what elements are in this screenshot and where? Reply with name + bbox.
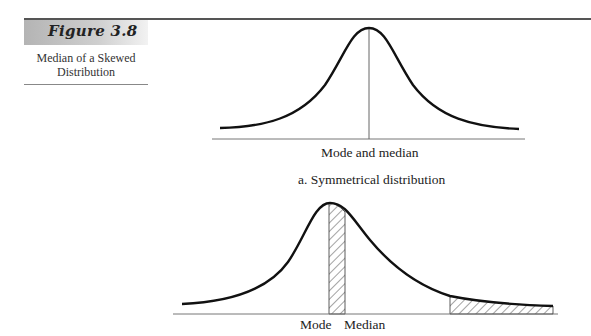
mode-median-shaded-strip (329, 203, 345, 314)
mode-and-median-label: Mode and median (321, 145, 418, 161)
symmetric-distribution-chart (212, 28, 525, 139)
mode-label: Mode (300, 317, 332, 333)
panel-a-subtitle: a. Symmetrical distribution (298, 172, 445, 188)
median-label: Median (344, 317, 385, 333)
skewed-distribution-chart (173, 203, 558, 314)
skewed-curve (182, 203, 553, 306)
chart-canvas (0, 0, 591, 336)
